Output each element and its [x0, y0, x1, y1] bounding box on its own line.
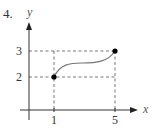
y-tick-label-3: 3: [16, 44, 22, 58]
y-tick-label-2: 2: [16, 70, 22, 84]
axes: [20, 26, 134, 120]
function-curve: [54, 51, 115, 77]
reference-lines: [29, 51, 115, 110]
endpoint-end: [112, 48, 117, 53]
x-axis-arrow-icon: [130, 107, 138, 113]
problem-number: 4.: [3, 6, 13, 21]
x-tick-label-1: 1: [51, 113, 57, 127]
x-axis-label: x: [142, 102, 149, 116]
x-tick-label-5: 5: [112, 113, 118, 127]
y-axis-label: y: [26, 5, 33, 19]
endpoint-start: [51, 74, 56, 79]
y-axis-arrow-icon: [26, 22, 32, 30]
function-graph: 4. y x 3 2 1 5: [0, 0, 153, 130]
